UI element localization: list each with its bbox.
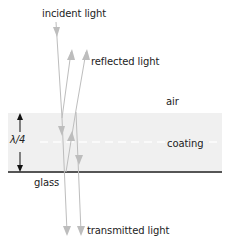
transmitted-ray-2 — [75, 112, 85, 236]
reflected-ray-1 — [62, 49, 75, 118]
arrow-up-icon — [17, 113, 23, 120]
diagram-canvas: incident light reflected light air coati… — [0, 0, 231, 243]
arrow-up-icon — [82, 49, 90, 60]
transmitted-light-label: transmitted light — [87, 225, 169, 236]
thickness-label: λ/4 — [10, 134, 25, 145]
incident-ray — [53, 22, 71, 236]
arrow-down-icon — [75, 155, 83, 165]
arrow-down-icon — [53, 27, 60, 37]
coating-label: coating — [167, 138, 203, 149]
air-label: air — [166, 96, 179, 107]
arrow-down-icon — [58, 126, 65, 136]
glass-label: glass — [34, 177, 59, 188]
arrow-down-icon — [63, 226, 71, 236]
arrow-up-icon — [67, 131, 75, 141]
arrow-down-icon — [77, 226, 85, 236]
incident-light-label: incident light — [42, 8, 106, 19]
arrow-up-icon — [67, 49, 75, 60]
arrow-down-icon — [17, 165, 23, 172]
ray-paths — [0, 0, 231, 243]
reflected-light-label: reflected light — [91, 56, 159, 67]
